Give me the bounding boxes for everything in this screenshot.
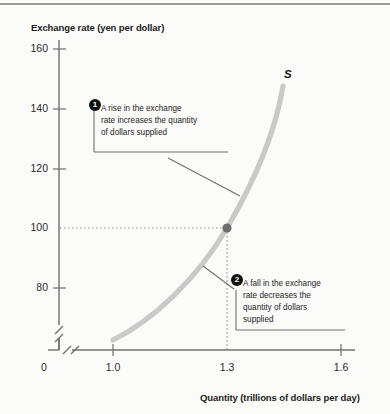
y-tick-label-160: 160 [22,42,48,54]
plot-area [0,0,390,414]
y-tick-label-80: 80 [22,281,48,293]
callout-one-leader-line [168,158,240,196]
y-tick-label-120: 120 [22,162,48,174]
callout-two-leader-line [203,266,234,289]
x-tick-label-1-0: 1.0 [98,361,128,373]
y-tick-label-100: 100 [22,221,48,233]
supply-curve-label: S [284,68,292,80]
y-tick-label-140: 140 [22,102,48,114]
callout-two-text: A fall in the exchange rate decreases th… [243,278,351,327]
callout-one-badge: 1 [89,99,101,111]
x-tick-label-1-6: 1.6 [326,361,356,373]
x-tick-label-0: 0 [29,361,59,373]
figure-container: Exchange rate (yen per dollar) Quantity … [0,0,390,414]
callout-two-badge: 2 [231,274,243,286]
y-axis-title: Exchange rate (yen per dollar) [31,22,164,33]
x-tick-label-1-3: 1.3 [212,361,242,373]
x-axis-break-mark-1 [63,346,71,354]
callout-one-text: A rise in the exchange rate increases th… [101,103,233,139]
y-axis-break-mark-1 [55,326,63,334]
equilibrium-point [222,223,231,232]
x-axis-title: Quantity (trillions of dollars per day) [200,392,360,403]
